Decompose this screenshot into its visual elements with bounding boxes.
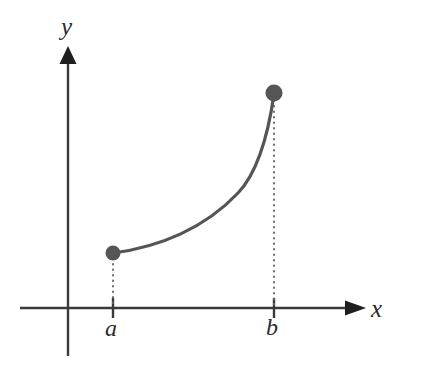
tick-label-a: a (105, 316, 117, 340)
y-axis-label: y (61, 14, 72, 39)
endpoint-dot-b (266, 85, 283, 102)
endpoint-dot-a (106, 246, 121, 261)
tick-label-b: b (266, 315, 278, 339)
figure-canvas: y x a b (0, 0, 446, 379)
graph-plot (0, 0, 446, 379)
x-axis-label: x (371, 296, 382, 321)
y-axis-arrowhead-icon (60, 46, 77, 64)
function-curve (113, 94, 274, 253)
x-axis-arrowhead-icon (345, 301, 366, 316)
